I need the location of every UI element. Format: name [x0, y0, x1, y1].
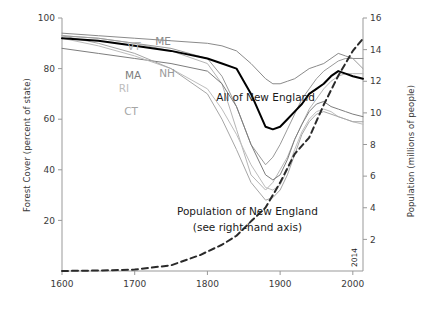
- series-line-population-of-new-england: [62, 39, 363, 271]
- x-tick-label: 1800: [196, 279, 219, 289]
- y2-tick-label: 8: [370, 140, 376, 150]
- y-tick-label: 100: [38, 13, 55, 23]
- y2-tick-label: 4: [370, 203, 376, 213]
- annotation-all-new-england: All of New England: [216, 91, 315, 103]
- end-year-label: 2014: [350, 248, 359, 267]
- y-tick-label: 80: [44, 64, 56, 74]
- y2-tick-label: 2: [370, 235, 376, 245]
- x-tick-label: 2000: [341, 279, 364, 289]
- x-tick-label: 1600: [51, 279, 74, 289]
- series-label-nh: NH: [159, 67, 175, 79]
- y-tick-label: 20: [44, 216, 56, 226]
- series-line-vt: [62, 36, 363, 190]
- series-label-vt: VT: [127, 40, 141, 52]
- annotation-population-line1: Population of New England: [177, 205, 318, 217]
- x-tick-label: 1700: [123, 279, 146, 289]
- y2-tick-label: 16: [370, 13, 382, 23]
- y2-tick-label: 6: [370, 171, 376, 181]
- series-label-me: ME: [155, 35, 171, 47]
- series-line-all-of-new-england: [62, 38, 363, 129]
- y2-tick-label: 12: [370, 76, 381, 86]
- annotation-population-line2: (see right-hand axis): [193, 221, 302, 233]
- series-label-ma: MA: [125, 69, 142, 81]
- y-tick-label: 60: [44, 114, 56, 124]
- forest-cover-population-chart: Forest Cover (percent of state) Populati…: [0, 0, 423, 314]
- y2-tick-label: 14: [370, 45, 382, 55]
- y-tick-label: 40: [44, 165, 56, 175]
- y2-tick-label: 10: [370, 108, 382, 118]
- series-label-ri: RI: [119, 82, 129, 94]
- x-tick-label: 1900: [269, 279, 292, 289]
- series-lines: [62, 33, 363, 271]
- axes: 1600170018001900200020406080100246810121…: [38, 13, 382, 289]
- series-label-ct: CT: [124, 105, 138, 117]
- plot-area: 1600170018001900200020406080100246810121…: [0, 0, 423, 314]
